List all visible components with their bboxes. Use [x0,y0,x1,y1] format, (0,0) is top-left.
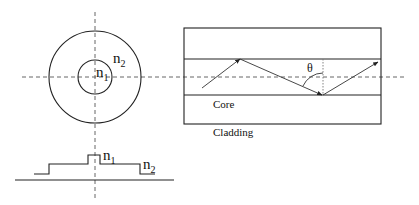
angle-theta-label: θ [307,61,313,75]
cladding-label: Cladding [213,126,254,138]
cladding-index-label: n2 [113,50,126,69]
core-label: Core [213,98,235,110]
profile-core-label: n1 [103,147,116,166]
ray-segment-1 [202,59,240,88]
angle-arc [303,73,323,86]
ray-segment-3 [323,62,378,95]
step-index-curve [34,155,155,174]
fiber-diagram: n2 n1 n1 n2 θ Core Cladding [0,0,419,205]
core-index-label: n1 [96,64,109,83]
fiber-longitudinal-view: θ Core Cladding [184,28,381,138]
profile-cladding-label: n2 [143,156,156,175]
refractive-index-profile: n1 n2 [15,147,174,180]
